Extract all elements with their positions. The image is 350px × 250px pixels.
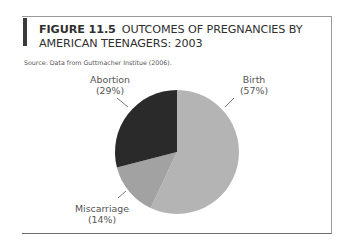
label-miscarriage: Miscarriage (14%) [70,203,134,225]
label-abortion: Abortion (29%) [78,74,142,96]
leader-line-abortion [117,98,128,107]
pie-chart [0,0,350,250]
leader-line-miscarriage [118,191,126,198]
leader-line-birth [225,98,234,107]
label-birth: Birth (57%) [234,74,274,96]
